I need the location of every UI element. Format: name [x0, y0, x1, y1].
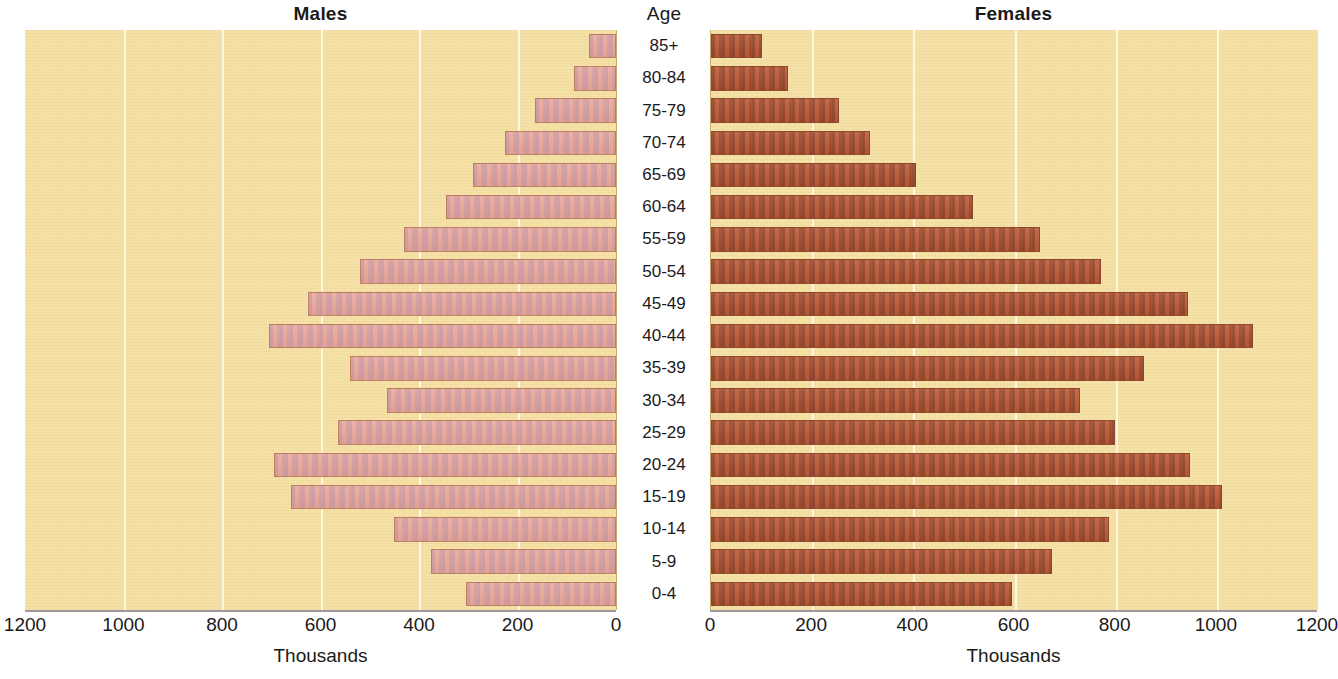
bar-row [25, 384, 616, 416]
bar-row [711, 223, 1318, 255]
bar-55-59[interactable] [404, 227, 616, 251]
bar-row [25, 578, 616, 610]
bar-5-9[interactable] [431, 549, 616, 573]
bar-0-4[interactable] [711, 582, 1012, 606]
x-tick-400: 400 [403, 614, 435, 636]
bar-65-69[interactable] [473, 163, 616, 187]
bar-row [25, 320, 616, 352]
females-x-axis: 020040060080010001200 [710, 610, 1317, 640]
males-panel-title: Males [25, 3, 616, 25]
bar-row [711, 159, 1318, 191]
bar-65-69[interactable] [711, 163, 916, 187]
bar-5-9[interactable] [711, 549, 1052, 573]
bar-0-4[interactable] [466, 582, 616, 606]
bar-60-64[interactable] [446, 195, 616, 219]
bar-row [25, 352, 616, 384]
bar-25-29[interactable] [338, 420, 616, 444]
age-label-75-79: 75-79 [618, 94, 710, 126]
bar-75-79[interactable] [711, 98, 839, 122]
bar-80-84[interactable] [574, 66, 616, 90]
bar-80-84[interactable] [711, 66, 788, 90]
bar-row [25, 256, 616, 288]
males-axis-line [25, 610, 616, 612]
bar-row [711, 288, 1318, 320]
x-tick-1200: 1200 [4, 614, 46, 636]
bar-75-79[interactable] [535, 98, 616, 122]
bar-row [711, 417, 1318, 449]
bar-row [25, 223, 616, 255]
bar-60-64[interactable] [711, 195, 973, 219]
age-label-70-74: 70-74 [618, 127, 710, 159]
age-label-50-54: 50-54 [618, 256, 710, 288]
bar-row [711, 513, 1318, 545]
bar-row [25, 288, 616, 320]
x-tick-600: 600 [305, 614, 337, 636]
bar-20-24[interactable] [711, 453, 1190, 477]
bar-25-29[interactable] [711, 420, 1115, 444]
bar-row [711, 256, 1318, 288]
females-axis-line [710, 610, 1317, 612]
bar-45-49[interactable] [711, 292, 1188, 316]
bar-20-24[interactable] [274, 453, 616, 477]
bar-row [25, 62, 616, 94]
bar-row [25, 481, 616, 513]
bar-45-49[interactable] [308, 292, 616, 316]
bar-70-74[interactable] [711, 131, 870, 155]
bar-row [711, 481, 1318, 513]
bar-row [25, 449, 616, 481]
bar-row [25, 417, 616, 449]
bar-row [25, 94, 616, 126]
bar-85+[interactable] [589, 34, 616, 58]
females-axis-caption: Thousands [710, 645, 1317, 667]
bar-30-34[interactable] [711, 388, 1080, 412]
bar-10-14[interactable] [711, 517, 1109, 541]
bar-10-14[interactable] [394, 517, 616, 541]
females-bar-rows [711, 30, 1318, 610]
bar-row [25, 513, 616, 545]
x-tick-0: 0 [705, 614, 716, 636]
bar-85+[interactable] [711, 34, 762, 58]
x-tick-800: 800 [1099, 614, 1131, 636]
bar-row [25, 191, 616, 223]
age-label-40-44: 40-44 [618, 320, 710, 352]
bar-35-39[interactable] [711, 356, 1144, 380]
x-tick-1000: 1000 [102, 614, 144, 636]
bar-row [711, 352, 1318, 384]
x-tick-0: 0 [611, 614, 622, 636]
males-bar-rows [25, 30, 616, 610]
bar-row [25, 30, 616, 62]
age-label-15-19: 15-19 [618, 481, 710, 513]
age-label-10-14: 10-14 [618, 513, 710, 545]
age-labels-column: 85+80-8475-7970-7465-6960-6455-5950-5445… [618, 30, 710, 610]
bar-70-74[interactable] [505, 131, 616, 155]
males-plot-area [25, 30, 617, 610]
age-label-80-84: 80-84 [618, 62, 710, 94]
x-tick-600: 600 [998, 614, 1030, 636]
bar-55-59[interactable] [711, 227, 1040, 251]
bar-30-34[interactable] [387, 388, 616, 412]
bar-row [711, 546, 1318, 578]
bar-15-19[interactable] [291, 485, 616, 509]
males-x-axis: 120010008006004002000 [25, 610, 616, 640]
age-label-35-39: 35-39 [618, 352, 710, 384]
bar-row [711, 127, 1318, 159]
bar-row [711, 320, 1318, 352]
bar-row [711, 449, 1318, 481]
age-label-85+: 85+ [618, 30, 710, 62]
bar-50-54[interactable] [711, 259, 1101, 283]
age-label-25-29: 25-29 [618, 417, 710, 449]
bar-40-44[interactable] [711, 324, 1253, 348]
bar-15-19[interactable] [711, 485, 1222, 509]
bar-50-54[interactable] [360, 259, 616, 283]
bar-row [711, 578, 1318, 610]
x-tick-200: 200 [502, 614, 534, 636]
bar-35-39[interactable] [350, 356, 616, 380]
x-tick-800: 800 [206, 614, 238, 636]
age-label-20-24: 20-24 [618, 449, 710, 481]
bar-40-44[interactable] [269, 324, 616, 348]
bar-row [25, 159, 616, 191]
x-tick-400: 400 [896, 614, 928, 636]
age-label-45-49: 45-49 [618, 288, 710, 320]
bar-row [711, 30, 1318, 62]
